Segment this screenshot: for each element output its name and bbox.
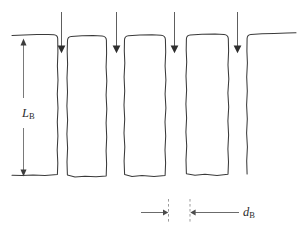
figure-canvas: LB dB [0, 0, 299, 239]
block-outline-2 [67, 36, 107, 177]
load-arrow-4 [234, 12, 242, 53]
load-arrow-3 [171, 12, 179, 53]
block-outline-1 [12, 34, 58, 175]
block-length-subscript: B [29, 111, 35, 121]
load-arrow-2 [113, 12, 121, 53]
block-outline-5 [247, 33, 296, 174]
block-gap-label: dB [243, 203, 255, 220]
block-outline-3 [124, 35, 166, 177]
block-gap-subscript: B [249, 210, 255, 220]
block-length-variable: L [22, 106, 29, 120]
load-arrow-1 [58, 12, 66, 53]
block-outline-4 [186, 34, 229, 175]
block-gap-dimension [141, 199, 239, 222]
block-length-label: LB [22, 104, 35, 121]
